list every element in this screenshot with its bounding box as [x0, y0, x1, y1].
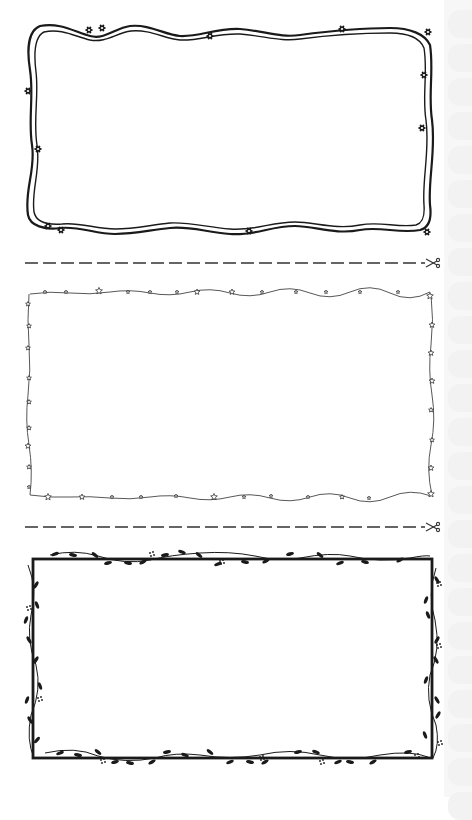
stitch-top — [30, 288, 430, 298]
star-icon — [430, 438, 435, 443]
cut-line-1 — [25, 258, 440, 267]
leaf-icon — [24, 696, 30, 705]
star-icon — [43, 290, 47, 294]
star-icon — [428, 350, 434, 355]
leaf-icon — [126, 761, 134, 766]
leaf-icon — [334, 759, 343, 765]
leaf-icon — [261, 759, 270, 766]
leaf-icon — [435, 711, 442, 720]
vine-frame-border — [33, 559, 432, 758]
leaf-icon — [26, 636, 33, 645]
leaf-icon — [206, 748, 214, 756]
leaf-icon — [246, 760, 254, 765]
berry-cluster-icon — [319, 759, 325, 765]
star-icon — [26, 302, 31, 307]
star-icon — [242, 495, 246, 499]
star-icon — [428, 491, 435, 497]
cut-line-2 — [25, 522, 440, 531]
star-stitch-frame — [27, 288, 434, 502]
flower-icon — [338, 25, 346, 33]
leaf-icon — [434, 696, 441, 705]
star-decorations — [25, 287, 435, 499]
flower-icon — [418, 124, 426, 132]
berry-cluster-icon — [149, 551, 155, 557]
leaf-icon — [369, 759, 378, 766]
berry-cluster-icon — [437, 740, 443, 746]
flower-icon — [424, 28, 432, 36]
star-icon — [110, 495, 114, 499]
star-icon — [358, 290, 362, 294]
star-icon — [429, 322, 435, 327]
scissors-icon — [426, 522, 440, 531]
star-icon — [194, 289, 200, 294]
leaf-icon — [69, 553, 77, 558]
leaf-icon — [51, 551, 60, 557]
star-icon — [64, 290, 68, 294]
flower-icon — [98, 24, 106, 32]
leaf-icon — [286, 551, 295, 556]
ribbon-inner — [33, 31, 427, 230]
star-icon — [148, 290, 152, 294]
vine-leaf-frame — [28, 552, 437, 760]
scissors-icon — [426, 258, 440, 267]
star-icon — [26, 346, 31, 351]
leaf-icon — [336, 560, 345, 566]
star-icon — [306, 495, 310, 499]
star-icon — [27, 324, 32, 329]
leaf-decorations — [23, 549, 443, 765]
flower-decorations — [24, 24, 432, 236]
star-icon — [79, 494, 85, 499]
vine-stems — [28, 552, 437, 760]
star-icon — [174, 494, 178, 498]
star-icon — [211, 494, 218, 500]
star-icon — [260, 290, 264, 294]
star-icon — [139, 495, 143, 499]
leaf-icon — [423, 676, 429, 685]
star-icon — [25, 443, 31, 448]
star-icon — [27, 485, 31, 489]
star-icon — [27, 376, 32, 381]
star-icon — [269, 494, 273, 498]
star-icon — [429, 408, 434, 413]
leaf-icon — [425, 611, 431, 620]
leaf-icon — [226, 759, 235, 765]
leaf-icon — [294, 749, 303, 754]
star-icon — [396, 290, 400, 294]
star-icon — [367, 496, 371, 500]
star-icon — [45, 494, 52, 500]
leaf-icon — [163, 750, 171, 755]
leaf-icon — [34, 601, 40, 610]
star-icon — [294, 290, 298, 294]
star-icon — [175, 290, 179, 294]
ribbon-outer — [27, 25, 433, 234]
berry-cluster-icon — [26, 605, 32, 611]
star-icon — [324, 290, 328, 294]
leaf-icon — [104, 560, 113, 565]
star-icon — [229, 289, 235, 294]
berry-cluster-icon — [37, 696, 43, 702]
flower-icon — [85, 26, 93, 34]
leaf-icon — [422, 731, 428, 740]
leaf-icon — [346, 760, 354, 765]
leaf-icon — [23, 616, 29, 625]
leaf-icon — [423, 596, 429, 605]
wavy-ribbon-frame — [27, 25, 433, 234]
leaf-icon — [404, 749, 413, 754]
flower-icon — [420, 71, 428, 79]
